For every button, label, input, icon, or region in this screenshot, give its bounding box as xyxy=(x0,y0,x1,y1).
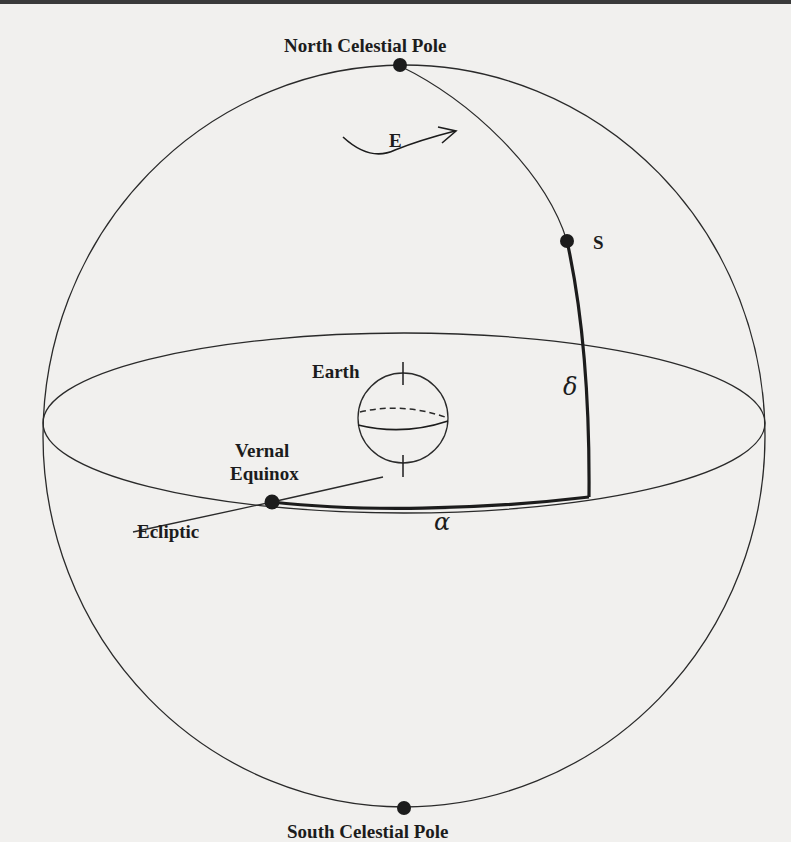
star-label: S xyxy=(593,233,604,252)
right-ascension-symbol: α xyxy=(434,510,450,534)
earth-equator-back xyxy=(360,408,448,418)
south-celestial-pole-label: South Celestial Pole xyxy=(287,822,449,841)
declination-symbol: δ xyxy=(563,375,577,399)
ecliptic-label: Ecliptic xyxy=(137,522,199,541)
vernal-equinox-label-line1: Vernal xyxy=(235,441,289,460)
north-celestial-pole-label: North Celestial Pole xyxy=(284,36,447,55)
south-celestial-pole-point xyxy=(397,801,411,815)
vernal-equinox-point xyxy=(265,495,280,510)
declination-arc xyxy=(567,241,589,497)
north-celestial-pole-point xyxy=(393,58,407,72)
earth-label: Earth xyxy=(312,362,360,381)
east-label: E xyxy=(389,131,402,150)
celestial-equator xyxy=(43,333,765,513)
star-point xyxy=(560,234,574,248)
earth-equator-front xyxy=(358,421,448,430)
vernal-equinox-label-line2: Equinox xyxy=(230,464,299,483)
hour-circle-thin xyxy=(400,66,567,241)
celestial-sphere-diagram xyxy=(0,0,791,842)
earth-globe xyxy=(358,373,448,463)
celestial-sphere-outline xyxy=(43,65,765,807)
